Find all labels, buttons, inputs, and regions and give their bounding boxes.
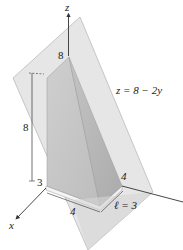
length-dimension-label: ℓ = 3	[114, 199, 138, 211]
plane-equation-label: z = 8 − 2y	[115, 84, 162, 96]
z-axis-label: z	[64, 1, 70, 13]
diagram-canvas: z 8 x 8 3 4 4 ℓ = 3 z = 8 − 2y	[0, 0, 183, 250]
x-axis-label: x	[8, 219, 14, 231]
y-extent-label: 4	[121, 170, 127, 182]
z-intercept-label: 8	[58, 49, 64, 61]
corner-value-label: 3	[37, 176, 43, 188]
front-width-label: 4	[70, 205, 76, 217]
height-dimension-label: 8	[23, 121, 29, 133]
x-axis	[17, 188, 46, 218]
